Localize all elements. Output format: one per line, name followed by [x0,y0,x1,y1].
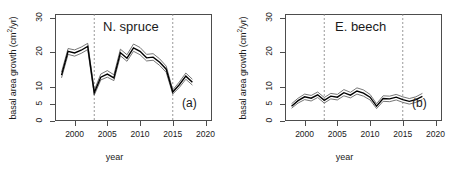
x-tick-label: 2010 [125,129,155,139]
figure-two-panel-growth: basal area growth (cm2/yr) year 05102030… [0,0,459,176]
y-tick-label: 20 [34,41,44,61]
panel-a-title: N. spruce [103,19,159,34]
x-tick-mark [337,121,338,126]
y-tick-label: 20 [264,41,274,61]
y-tick-mark [50,87,55,88]
y-tick-mark [280,18,285,19]
y-tick-mark [50,104,55,105]
y-tick-mark [50,121,55,122]
y-tick-label: 10 [264,76,274,96]
x-tick-label: 2015 [388,129,418,139]
y-tick-label: 30 [264,7,274,27]
x-tick-mark [436,121,437,126]
x-axis-label: year [230,152,459,162]
panel-b-title: E. beech [335,19,386,34]
y-axis-label-superscript: 2 [236,29,243,33]
x-tick-mark [140,121,141,126]
y-axis-label: basal area growth (cm2/yr) [236,8,248,128]
y-tick-mark [280,104,285,105]
y-axis-label-text: basal area growth (cm [238,33,248,120]
x-tick-label: 2005 [322,129,352,139]
x-tick-mark [403,121,404,126]
x-axis-label: year [0,152,229,162]
x-tick-label: 2015 [158,129,188,139]
y-tick-label: 0 [264,110,274,130]
x-tick-label: 2010 [355,129,385,139]
x-tick-label: 2020 [191,129,221,139]
y-tick-mark [50,18,55,19]
y-tick-mark [280,121,285,122]
x-tick-mark [107,121,108,126]
x-tick-mark [173,121,174,126]
y-axis-label-tail: /yr) [238,16,248,29]
y-axis-label-text: basal area growth (cm [8,33,18,120]
panel-b-tag: (b) [412,96,427,110]
y-tick-label: 0 [34,110,44,130]
x-tick-mark [305,121,306,126]
y-axis-label-superscript: 2 [6,29,13,33]
x-tick-label: 2000 [60,129,90,139]
y-axis-label-tail: /yr) [8,16,18,29]
x-tick-label: 2020 [421,129,451,139]
y-tick-mark [280,87,285,88]
y-tick-mark [50,52,55,53]
x-tick-mark [75,121,76,126]
y-tick-label: 30 [34,7,44,27]
y-axis-label: basal area growth (cm2/yr) [6,8,18,128]
panel-b-e-beech: basal area growth (cm2/yr) year 05102030… [230,0,459,176]
x-tick-label: 2000 [290,129,320,139]
x-tick-mark [206,121,207,126]
y-tick-label: 10 [34,76,44,96]
x-tick-mark [370,121,371,126]
panel-a-n-spruce: basal area growth (cm2/yr) year 05102030… [0,0,229,176]
x-tick-label: 2005 [92,129,122,139]
y-tick-mark [280,52,285,53]
panel-a-tag: (a) [182,96,197,110]
